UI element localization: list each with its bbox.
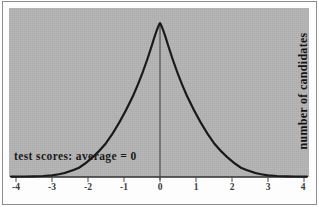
x-tick-label: -3 <box>48 182 56 192</box>
y-axis-title: number of candidates <box>296 32 311 149</box>
x-tick-label: 1 <box>194 182 199 192</box>
x-tick-label: 3 <box>266 182 271 192</box>
x-axis-tick-labels: -4 -3 -2 -1 0 1 2 3 4 <box>0 182 319 198</box>
x-tick-label: -2 <box>84 182 92 192</box>
bell-curve-figure: test scores: average = 0 number of candi… <box>0 0 319 207</box>
x-tick-label: 0 <box>158 182 163 192</box>
y-axis-title-wrap: number of candidates <box>293 10 313 172</box>
chart-canvas <box>0 0 319 207</box>
average-annotation-label: test scores: average = 0 <box>14 149 137 163</box>
x-tick-label: -4 <box>12 182 20 192</box>
x-tick-label: -1 <box>120 182 128 192</box>
x-tick-label: 2 <box>230 182 235 192</box>
x-tick-label: 4 <box>301 182 306 192</box>
